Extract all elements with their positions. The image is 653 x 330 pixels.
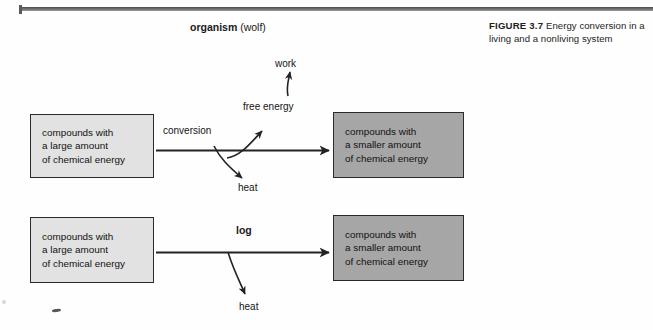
log-source-box-text: compounds with a large amount of chemica… — [42, 230, 125, 270]
scan-artifact-mark — [52, 308, 61, 312]
organism-diagram-title: organism (wolf) — [190, 21, 266, 33]
top-divider-left-cap — [19, 5, 22, 14]
conversion-label: conversion — [163, 125, 211, 137]
organism-product-box-text: compounds with a smaller amount of chemi… — [345, 125, 428, 165]
log-product-box: compounds with a smaller amount of chemi… — [333, 215, 464, 281]
log-title-strong: log — [236, 224, 252, 236]
organism-heat-label: heat — [238, 182, 257, 194]
organism-heat-branch-arrow — [214, 146, 242, 178]
organism-product-box: compounds with a smaller amount of chemi… — [333, 112, 464, 178]
figure-caption-label: FIGURE 3.7 — [489, 20, 543, 31]
log-product-box-text: compounds with a smaller amount of chemi… — [345, 228, 428, 268]
free-energy-branch-arrow — [227, 131, 262, 158]
log-source-box: compounds with a large amount of chemica… — [30, 217, 154, 283]
log-heat-label: heat — [239, 301, 258, 313]
free-energy-label: free energy — [243, 101, 294, 113]
log-diagram-title: log — [236, 224, 252, 236]
scan-speck — [2, 300, 6, 304]
organism-title-light: (wolf) — [237, 21, 266, 33]
figure-caption: FIGURE 3.7 Energy conversion in a living… — [489, 20, 649, 45]
log-heat-branch-arrow — [228, 252, 245, 294]
work-arrow — [287, 72, 290, 96]
organism-title-strong: organism — [190, 21, 237, 33]
figure-page: FIGURE 3.7 Energy conversion in a living… — [0, 0, 653, 330]
work-label: work — [275, 58, 296, 70]
organism-source-box: compounds with a large amount of chemica… — [30, 114, 154, 178]
top-divider-rule — [19, 7, 653, 11]
organism-source-box-text: compounds with a large amount of chemica… — [42, 126, 125, 166]
